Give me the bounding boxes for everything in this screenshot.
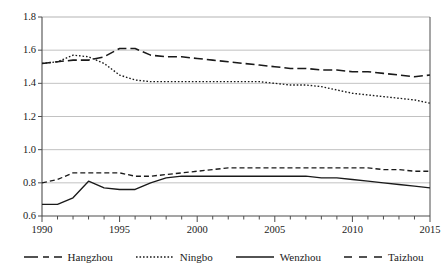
legend-item-wenzhou[interactable]: Wenzhou	[235, 251, 321, 263]
legend-label: Hangzhou	[68, 251, 113, 263]
legend-label: Taizhou	[388, 251, 423, 263]
x-axis-tick-label: 1995	[100, 225, 140, 236]
x-axis-tick-label: 2015	[410, 225, 446, 236]
y-axis-tick-label: 0.8	[23, 178, 36, 189]
legend-item-ningbo[interactable]: Ningbo	[135, 251, 213, 263]
series-line-wenzhou	[42, 176, 430, 204]
legend-item-hangzhou[interactable]: Hangzhou	[23, 251, 113, 263]
legend-label: Wenzhou	[280, 251, 321, 263]
x-axis-tick-label: 2000	[177, 225, 217, 236]
chart-legend: HangzhouNingboWenzhouTaizhou	[0, 246, 446, 268]
y-axis-tick-label: 0.6	[23, 211, 36, 222]
y-axis-tick-label: 1.2	[23, 112, 36, 123]
x-axis-tick-label: 1990	[22, 225, 62, 236]
legend-swatch-dotted-icon	[135, 252, 175, 262]
line-chart: HangzhouNingboWenzhouTaizhou 0.60.81.01.…	[0, 0, 446, 271]
legend-swatch-long-dash-icon	[343, 252, 383, 262]
series-line-hangzhou	[42, 168, 430, 183]
x-axis-tick-label: 2010	[332, 225, 372, 236]
y-axis-tick-label: 1.8	[23, 12, 36, 23]
y-axis-tick-label: 1.6	[23, 45, 36, 56]
legend-item-taizhou[interactable]: Taizhou	[343, 251, 423, 263]
legend-swatch-solid-icon	[235, 252, 275, 262]
x-axis-tick-label: 2005	[255, 225, 295, 236]
legend-label: Ningbo	[180, 251, 213, 263]
y-axis-tick-label: 1.0	[23, 145, 36, 156]
legend-swatch-dash-dash-icon	[23, 252, 63, 262]
y-axis-tick-label: 1.4	[23, 78, 36, 89]
series-line-taizhou	[42, 49, 430, 77]
plot-area	[0, 0, 446, 271]
